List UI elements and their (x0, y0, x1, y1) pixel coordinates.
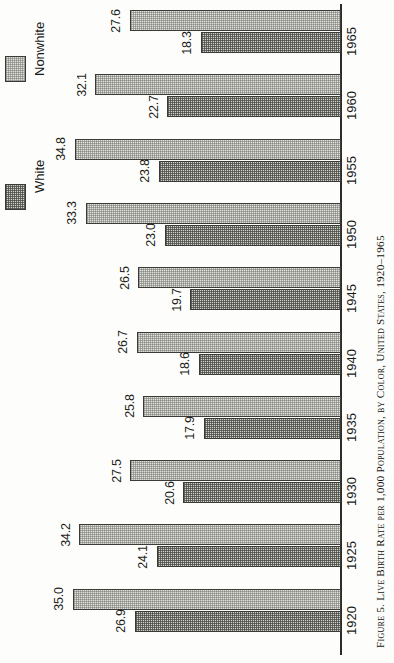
figure-caption: Figure 5. Live Birth Rate per 1,000 Popu… (374, 235, 386, 648)
bar-white-1960: 22.7 (167, 96, 341, 117)
tick-label-1920: 1920 (344, 605, 359, 635)
bar-value-label: 27.5 (110, 459, 124, 483)
tick-label-1945: 1945 (344, 283, 359, 313)
bar-nonwhite-1965: 27.6 (130, 10, 341, 31)
bar-value-label: 26.5 (117, 266, 131, 290)
bar-white-1945: 19.7 (190, 289, 341, 310)
bar-value-label: 24.1 (136, 545, 150, 569)
tick-label-1955: 1955 (344, 155, 359, 185)
bar-value-label: 33.3 (65, 202, 79, 226)
legend-swatch-nonwhite-icon (5, 56, 26, 82)
bar-nonwhite-1945: 26.5 (138, 267, 341, 288)
bar-value-label: 23.8 (138, 159, 152, 183)
bar-nonwhite-1940: 26.7 (137, 332, 341, 353)
bar-white-1935: 17.9 (204, 418, 341, 439)
figure-bar-chart: 27.618.332.122.734.823.833.323.026.519.7… (0, 0, 394, 663)
tick-label-1950: 1950 (344, 219, 359, 249)
bar-value-label: 20.6 (163, 481, 177, 505)
bar-white-1930: 20.6 (183, 482, 341, 503)
bar-value-label: 18.6 (178, 352, 192, 376)
bar-value-label: 35.0 (52, 587, 66, 611)
bar-nonwhite-1930: 27.5 (130, 460, 341, 481)
bar-value-label: 27.6 (109, 9, 123, 33)
bar-white-1955: 23.8 (159, 161, 341, 182)
bar-value-label: 32.1 (74, 73, 88, 97)
tick-label-1960: 1960 (344, 90, 359, 120)
bar-white-1920: 26.9 (135, 611, 341, 632)
bar-value-label: 26.7 (116, 330, 130, 354)
bar-nonwhite-1950: 33.3 (86, 203, 341, 224)
bar-nonwhite-1955: 34.8 (75, 139, 342, 160)
bar-value-label: 34.2 (58, 523, 72, 547)
plot-area: 27.618.332.122.734.823.833.323.026.519.7… (0, 0, 394, 663)
legend-label-nonwhite: Nonwhite (32, 22, 47, 76)
bar-nonwhite-1920: 35.0 (73, 589, 341, 610)
bar-nonwhite-1925: 34.2 (79, 524, 341, 545)
bar-value-label: 34.8 (54, 137, 68, 161)
bar-value-label: 22.7 (146, 95, 160, 119)
tick-label-1930: 1930 (344, 476, 359, 506)
tick-label-1925: 1925 (344, 540, 359, 570)
bar-nonwhite-1935: 25.8 (143, 396, 341, 417)
tick-label-1935: 1935 (344, 412, 359, 442)
legend-label-white: White (32, 160, 47, 193)
bar-white-1940: 18.6 (199, 354, 341, 375)
bar-white-1950: 23.0 (165, 225, 341, 246)
bar-value-label: 23.0 (144, 224, 158, 248)
legend-swatch-white-icon (5, 184, 26, 210)
bar-value-label: 18.3 (180, 31, 194, 55)
bar-white-1925: 24.1 (157, 546, 342, 567)
tick-label-1940: 1940 (344, 348, 359, 378)
bar-value-label: 26.9 (114, 609, 128, 633)
bar-nonwhite-1960: 32.1 (95, 74, 341, 95)
figure-caption-text: Figure 5. Live Birth Rate per 1,000 Popu… (374, 235, 386, 648)
tick-label-1965: 1965 (344, 26, 359, 56)
bar-value-label: 17.9 (183, 417, 197, 441)
bar-white-1965: 18.3 (201, 32, 341, 53)
bar-value-label: 25.8 (123, 395, 137, 419)
bar-value-label: 19.7 (169, 288, 183, 312)
